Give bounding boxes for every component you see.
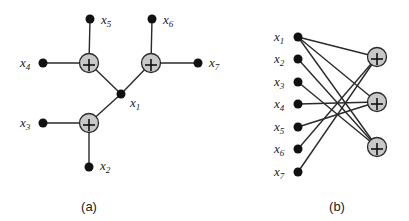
node-b-x7 bbox=[294, 168, 303, 177]
sum-node-right bbox=[142, 54, 161, 73]
label-b-x5: x5 bbox=[273, 119, 285, 136]
sum-node-bottom bbox=[80, 114, 99, 133]
sum-node-left bbox=[80, 54, 99, 73]
node-x4 bbox=[39, 59, 48, 68]
panel-b: x1 x2 x3 x4 x5 x6 x7 (b) bbox=[273, 29, 387, 214]
label-x6: x6 bbox=[162, 12, 174, 29]
caption-a: (a) bbox=[81, 199, 97, 214]
node-x5 bbox=[86, 15, 95, 24]
label-b-x6: x6 bbox=[273, 141, 285, 158]
edge-x7-f1 bbox=[298, 57, 377, 172]
node-x2 bbox=[85, 163, 94, 172]
label-x2: x2 bbox=[99, 158, 111, 175]
node-b-x3 bbox=[294, 78, 303, 87]
node-b-x6 bbox=[294, 145, 303, 154]
label-x4: x4 bbox=[19, 55, 31, 72]
label-b-x2: x2 bbox=[273, 51, 285, 68]
sum-node-f1 bbox=[368, 48, 387, 67]
label-b-x7: x7 bbox=[273, 164, 285, 181]
label-x3: x3 bbox=[19, 115, 31, 132]
label-x1: x1 bbox=[129, 95, 140, 112]
node-x7 bbox=[194, 59, 203, 68]
label-b-x3: x3 bbox=[273, 74, 285, 91]
node-b-x1 bbox=[294, 33, 303, 42]
node-b-x5 bbox=[294, 123, 303, 132]
label-b-x1: x1 bbox=[273, 29, 284, 46]
panel-a: x5 x6 x4 x7 x1 x3 x2 (a) bbox=[19, 12, 220, 214]
node-x3 bbox=[39, 119, 48, 128]
figure-canvas: x5 x6 x4 x7 x1 x3 x2 (a) bbox=[0, 0, 409, 221]
label-x5: x5 bbox=[100, 12, 112, 29]
node-x1 bbox=[117, 90, 126, 99]
sum-node-f2 bbox=[368, 93, 387, 112]
node-b-x4 bbox=[294, 100, 303, 109]
label-x7: x7 bbox=[208, 55, 220, 72]
node-x6 bbox=[148, 15, 157, 24]
sum-node-f3 bbox=[368, 138, 387, 157]
caption-b: (b) bbox=[329, 199, 345, 214]
node-b-x2 bbox=[294, 55, 303, 64]
label-b-x4: x4 bbox=[273, 96, 285, 113]
